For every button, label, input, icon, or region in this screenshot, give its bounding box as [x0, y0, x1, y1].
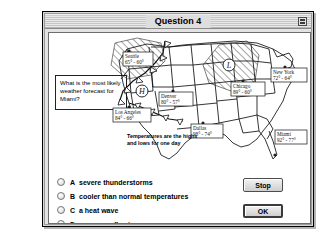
city-label-los-angeles: Los Angeles 84° - 66°: [113, 108, 151, 122]
radio-button-b[interactable]: [57, 192, 65, 200]
answer-options: A severe thunderstorms B cooler than nor…: [57, 175, 242, 224]
city-label-new-york: New York 72° - 64°: [271, 68, 307, 82]
option-label-d: rare snow flurries: [79, 221, 138, 225]
screen: Question 4 What is the most likely weath…: [0, 0, 333, 249]
city-label-miami: Miami 92° - 77°: [275, 130, 307, 144]
question-content-area: What is the most likely weather forecast…: [48, 32, 311, 224]
city-temps-los-angeles: 84° - 66°: [115, 115, 134, 121]
option-row-c[interactable]: C a heat wave: [57, 203, 242, 217]
window-inner-frame: Question 4 What is the most likely weath…: [44, 13, 312, 225]
weather-map: H L: [107, 35, 311, 167]
map-caption: Temperatures are the highs and lows for …: [127, 133, 199, 147]
city-temps-chicago: 89° - 60°: [233, 89, 252, 95]
option-label-a: severe thunderstorms: [79, 179, 153, 186]
city-temps-miami: 92° - 77°: [277, 137, 296, 143]
option-letter-c: C: [70, 207, 79, 214]
radio-button-d[interactable]: [57, 220, 65, 224]
low-pressure-symbol: L: [223, 59, 235, 71]
window-title: Question 4: [146, 15, 211, 28]
option-letter-a: A: [70, 179, 79, 186]
high-pressure-symbol: H: [136, 85, 148, 97]
radio-button-c[interactable]: [57, 206, 65, 214]
city-temps-denver: 80° - 57°: [161, 99, 180, 105]
stop-button[interactable]: Stop: [243, 178, 283, 192]
collapse-box-icon[interactable]: [298, 17, 307, 26]
option-row-d[interactable]: D rare snow flurries: [57, 217, 242, 224]
option-letter-b: B: [70, 193, 79, 200]
option-label-b: cooler than normal temperatures: [79, 193, 188, 200]
window-titlebar[interactable]: Question 4: [45, 14, 311, 29]
city-label-seattle: Seattle 65° - 60°: [123, 52, 153, 66]
city-label-chicago: Chicago 89° - 60°: [231, 82, 265, 96]
city-temps-new-york: 72° - 64°: [273, 75, 292, 81]
option-label-c: a heat wave: [79, 207, 118, 214]
radio-button-a[interactable]: [57, 178, 65, 186]
ok-button[interactable]: OK: [243, 204, 283, 218]
low-pressure-label: L: [226, 61, 232, 70]
city-temps-seattle: 65° - 60°: [125, 59, 144, 65]
question-window: Question 4 What is the most likely weath…: [42, 11, 314, 227]
option-row-a[interactable]: A severe thunderstorms: [57, 175, 242, 189]
city-label-denver: Denver 80° - 57°: [159, 92, 193, 106]
option-row-b[interactable]: B cooler than normal temperatures: [57, 189, 242, 203]
option-letter-d: D: [70, 221, 79, 225]
